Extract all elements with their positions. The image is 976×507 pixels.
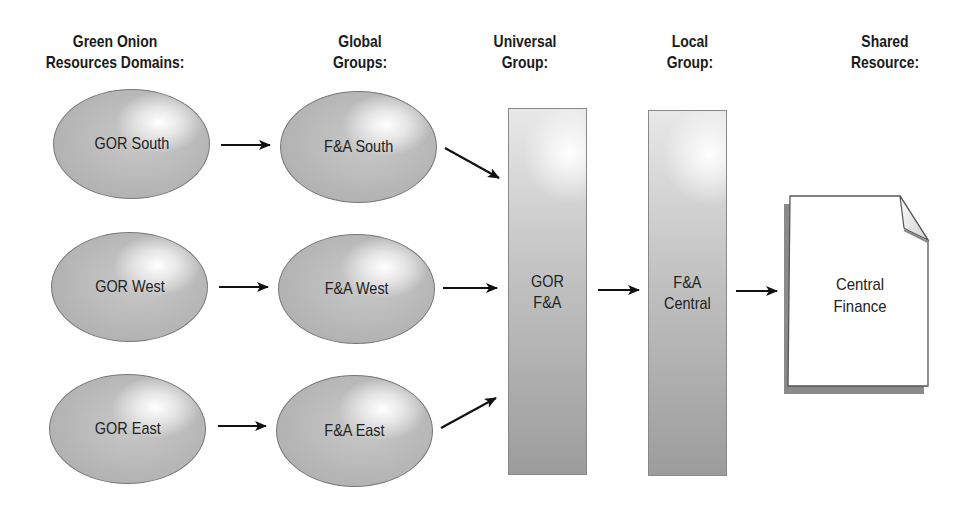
arrow-icon xyxy=(441,398,496,428)
arrow-icon xyxy=(445,148,499,178)
arrows-layer xyxy=(0,0,976,507)
